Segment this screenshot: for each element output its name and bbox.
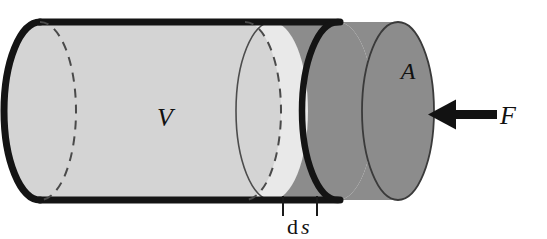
force-arrow-shaft — [452, 110, 497, 119]
gas-body-group — [4, 22, 308, 200]
physics-figure-canvas: V A F d s — [0, 0, 547, 239]
force-arrow — [428, 100, 497, 130]
displacement-label-s: s — [301, 214, 310, 239]
area-label: A — [399, 58, 416, 84]
piston-front-face-area-A — [362, 22, 434, 200]
cylinder-diagram-svg: V A F d s — [0, 0, 547, 239]
cylinder-body-light — [4, 22, 308, 200]
force-label: F — [499, 101, 517, 130]
displacement-label-d: d — [287, 214, 298, 239]
